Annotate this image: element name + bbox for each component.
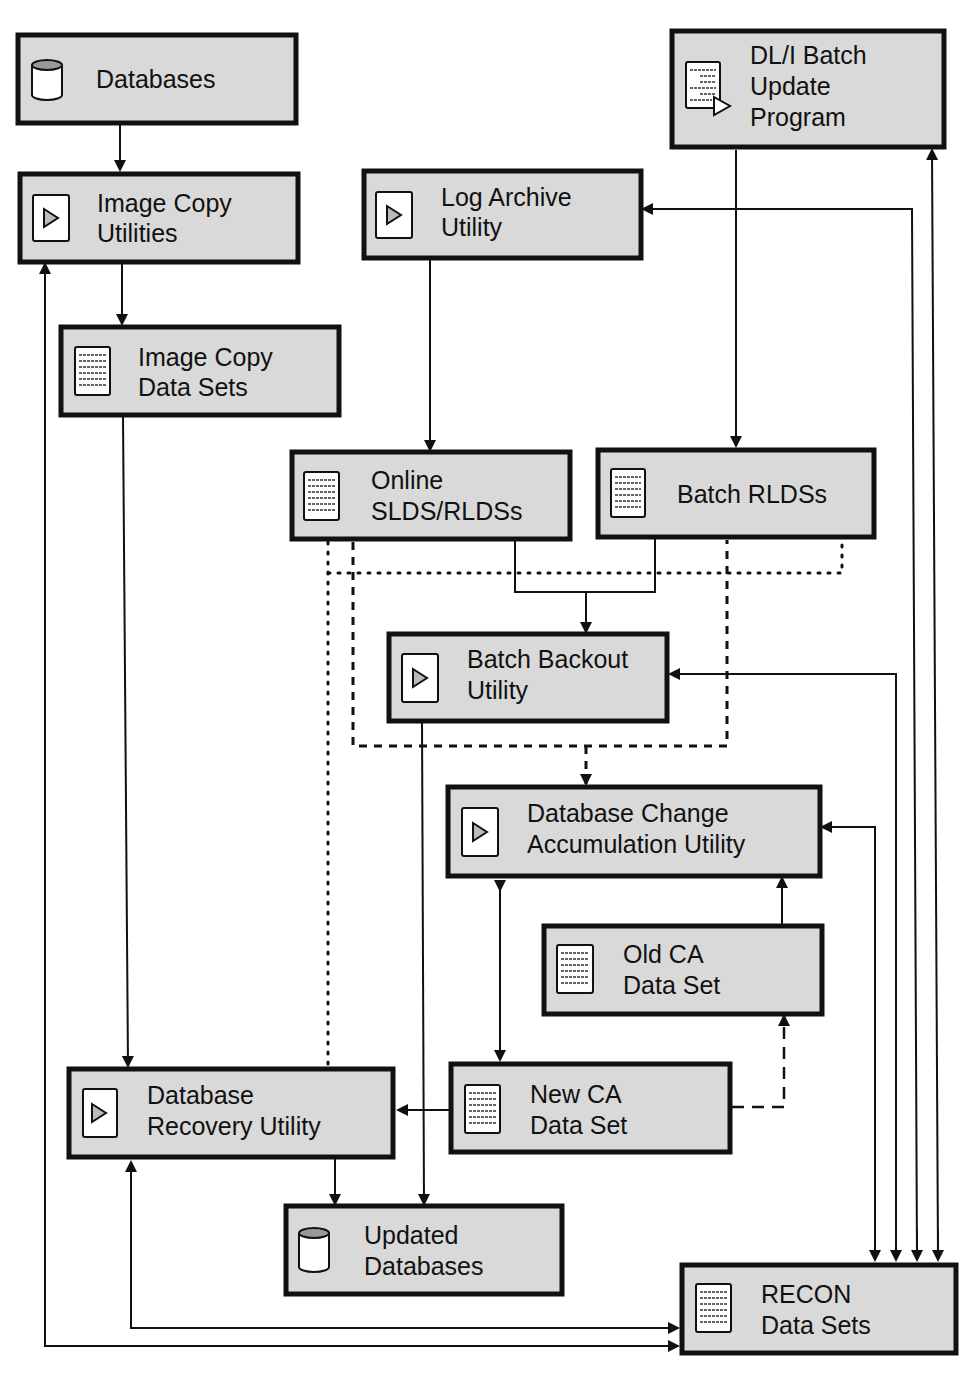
node-label-line2: Data Sets <box>138 373 248 401</box>
node-label-line2: Databases <box>364 1252 484 1280</box>
edge-recon-change-accum <box>822 827 875 1256</box>
utility-play-icon <box>462 808 498 856</box>
ims-recovery-flow-diagram: Databases Image Copy Utilities Image Cop… <box>0 0 976 1381</box>
node-online-slds-rldss: Online SLDS/RLDSs <box>292 452 570 539</box>
edge-image-copy-data-sets-to-recovery <box>123 416 128 1066</box>
edge-recon-dli <box>932 150 938 1256</box>
data-set-document-icon <box>557 945 593 993</box>
node-label-line2: Data Set <box>623 971 720 999</box>
node-db-change-accumulation-utility: Database Change Accumulation Utility <box>448 787 820 876</box>
utility-play-icon <box>376 192 412 238</box>
node-image-copy-utilities: Image Copy Utilities <box>20 174 298 262</box>
node-label-line2: Data Set <box>530 1111 627 1139</box>
node-label-line1: New CA <box>530 1080 622 1108</box>
node-dli-batch-update-program: DL/I Batch Update Program <box>672 31 944 147</box>
node-label-line1: Old CA <box>623 940 704 968</box>
node-label-line3: Program <box>750 103 846 131</box>
node-label-line2: Recovery Utility <box>147 1112 321 1140</box>
node-image-copy-data-sets: Image Copy Data Sets <box>61 327 339 415</box>
database-cylinder-icon <box>299 1228 329 1272</box>
node-label-line2: Accumulation Utility <box>527 830 746 858</box>
node-label-line2: Utilities <box>97 219 178 247</box>
node-label-line1: DL/I Batch <box>750 41 867 69</box>
node-database-recovery-utility: Database Recovery Utility <box>69 1069 393 1157</box>
node-batch-backout-utility: Batch Backout Utility <box>389 634 667 721</box>
utility-play-icon <box>33 195 69 241</box>
node-label-line2: Update <box>750 72 831 100</box>
node-label-line2: SLDS/RLDSs <box>371 497 522 525</box>
data-set-document-icon <box>304 472 339 520</box>
connectors <box>45 124 938 1346</box>
node-label-line1: Database Change <box>527 799 729 827</box>
node-updated-databases: Updated Databases <box>286 1206 562 1294</box>
edge-new-ca-to-old-ca <box>732 1016 784 1107</box>
node-label: Batch RLDSs <box>677 480 827 508</box>
node-databases: Databases <box>18 35 296 123</box>
node-label: Databases <box>96 65 216 93</box>
node-batch-rldss: Batch RLDSs <box>598 450 874 537</box>
node-label-line2: Data Sets <box>761 1311 871 1339</box>
node-old-ca-data-set: Old CA Data Set <box>544 926 822 1014</box>
database-cylinder-icon <box>32 60 62 100</box>
node-log-archive-utility: Log Archive Utility <box>364 171 641 258</box>
edge-batch-backout-to-updated-db <box>422 720 424 1204</box>
data-set-document-icon <box>611 469 645 517</box>
node-new-ca-data-set: New CA Data Set <box>451 1064 730 1152</box>
node-label-line1: Batch Backout <box>467 645 628 673</box>
node-label-line1: Log Archive <box>441 183 572 211</box>
node-label-line2: Utility <box>441 213 503 241</box>
node-label-line1: Online <box>371 466 443 494</box>
utility-play-icon <box>83 1089 117 1137</box>
node-label-line1: Image Copy <box>97 189 232 217</box>
utility-play-icon <box>402 654 438 702</box>
node-label-line1: Updated <box>364 1221 459 1249</box>
edge-dotted-crossbar <box>328 540 842 573</box>
node-label-line1: Database <box>147 1081 254 1109</box>
node-label-line2: Utility <box>467 676 529 704</box>
data-set-document-icon <box>75 347 110 395</box>
edge-slds-merge-to-batch-backout <box>515 538 655 592</box>
node-label-line1: RECON <box>761 1280 851 1308</box>
data-set-document-icon <box>465 1085 500 1133</box>
node-recon-data-sets: RECON Data Sets <box>682 1265 956 1353</box>
node-label-line1: Image Copy <box>138 343 273 371</box>
data-set-document-icon <box>696 1284 731 1332</box>
